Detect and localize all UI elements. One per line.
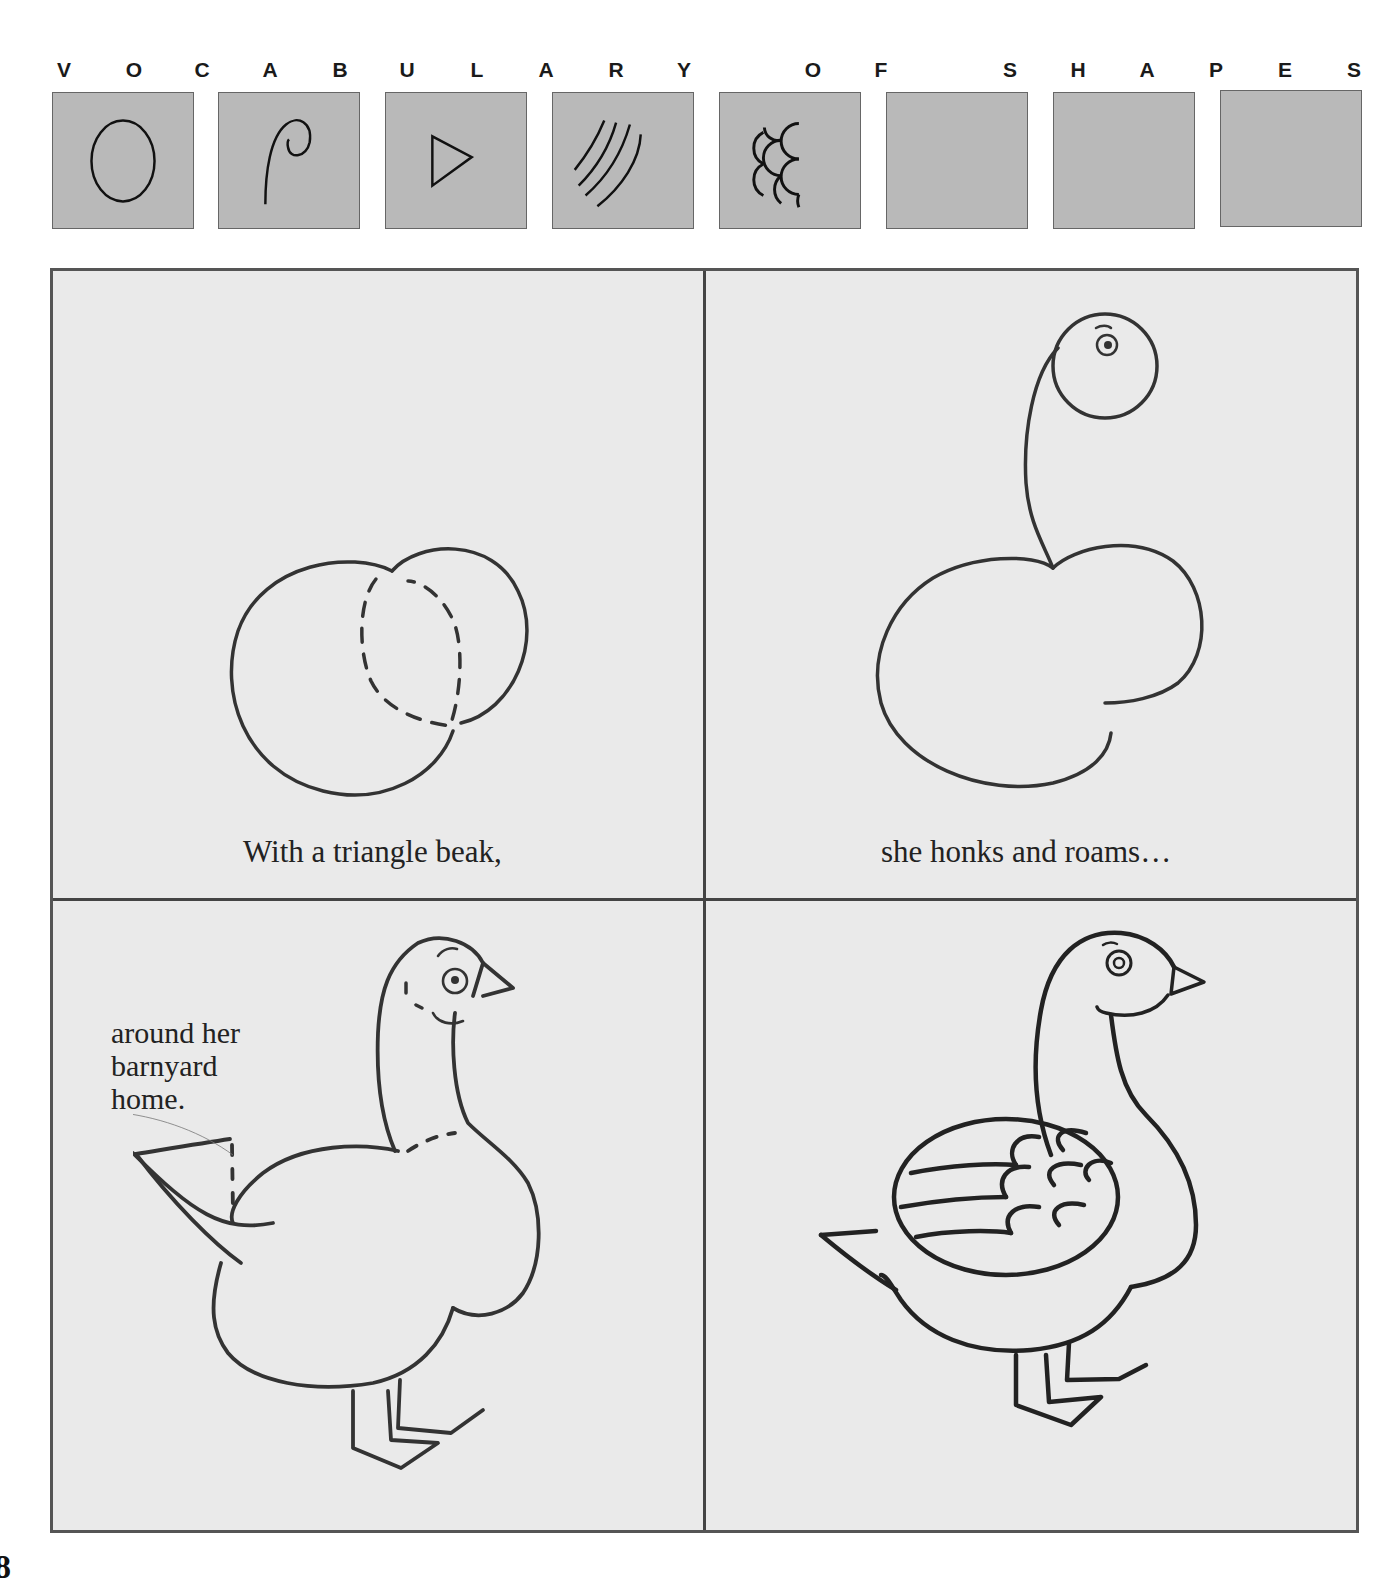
goose-body-circles-drawing [203, 521, 563, 821]
title-letter: A [262, 58, 277, 82]
title-letter: L [471, 58, 484, 82]
title-letter: E [1278, 58, 1292, 82]
title-letter: R [608, 58, 623, 82]
shape-tile-empty [886, 92, 1028, 229]
shape-tile-scallops [719, 92, 861, 229]
title-letter: A [538, 58, 553, 82]
title-letter: S [1003, 58, 1017, 82]
drawing-steps-grid: With a triangle beak, she honks and roam… [50, 268, 1359, 1533]
shape-tile-curved-lines [552, 92, 694, 229]
title-letter: S [1347, 58, 1361, 82]
title-letter: A [1139, 58, 1154, 82]
spiral-icon [219, 93, 359, 228]
step-2-caption: she honks and roams… [881, 834, 1171, 870]
shape-tile-empty [1220, 90, 1362, 227]
step-1-panel: With a triangle beak, [53, 271, 703, 898]
title-letter: C [194, 58, 209, 82]
title-letter: F [875, 58, 888, 82]
step-2-panel: she honks and roams… [706, 271, 1359, 898]
step-4-panel [706, 901, 1359, 1531]
goose-outline-drawing [133, 913, 573, 1523]
page-number: 8 [0, 1548, 11, 1582]
title-letter: O [126, 58, 142, 82]
curved-lines-icon [553, 93, 693, 228]
triangle-icon [386, 93, 526, 228]
title-letter: O [805, 58, 821, 82]
shape-tile-triangle [385, 92, 527, 229]
shape-tile-circle [52, 92, 194, 229]
step-3-panel: around her barnyard home. [53, 901, 703, 1531]
shape-tile-spiral [218, 92, 360, 229]
finished-goose-drawing [796, 915, 1236, 1525]
title-letter: U [399, 58, 414, 82]
title-letter: V [57, 58, 71, 82]
goose-neck-head-drawing [853, 293, 1233, 813]
step-1-caption: With a triangle beak, [243, 834, 502, 870]
title-letter: H [1070, 58, 1085, 82]
shape-tile-empty [1053, 92, 1195, 229]
scallops-icon [720, 93, 860, 228]
title-letter: Y [677, 58, 691, 82]
title-letter: B [332, 58, 347, 82]
circle-icon [53, 93, 193, 228]
title-letter: P [1209, 58, 1223, 82]
